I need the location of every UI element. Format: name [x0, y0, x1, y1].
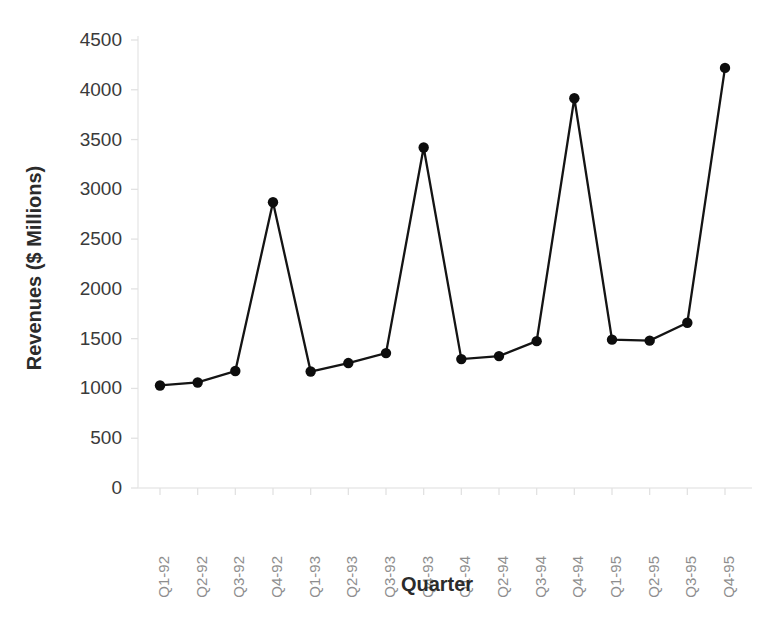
x-axis-tick-label: Q1-95	[607, 556, 624, 598]
data-point-marker	[305, 366, 315, 376]
chart-canvas: 050010001500200025003000350040004500 Q1-…	[0, 0, 783, 630]
x-axis-tick-label: Q3-93	[381, 556, 398, 598]
y-axis-tick-label: 2500	[80, 228, 122, 249]
data-point-marker	[381, 348, 391, 358]
x-axis-tick-label: Q4-92	[268, 556, 285, 598]
y-axis-tick-label: 3000	[80, 178, 122, 199]
data-point-marker	[192, 377, 202, 387]
x-axis-tick-label: Q4-95	[720, 556, 737, 598]
x-axis-tick-label: Q4-94	[569, 556, 586, 598]
x-axis-tick-label: Q2-92	[193, 556, 210, 598]
data-point-marker	[418, 142, 428, 152]
data-point-marker	[230, 366, 240, 376]
data-point-marker	[456, 354, 466, 364]
x-axis-tick-label: Q1-92	[155, 556, 172, 598]
x-axis-tick-label: Q2-94	[494, 556, 511, 598]
data-point-marker	[155, 380, 165, 390]
x-axis-tick-label: Q2-95	[645, 556, 662, 598]
y-axis-tick-label: 0	[111, 477, 122, 498]
y-axis-title: Revenues ($ Millions)	[23, 166, 45, 371]
y-axis-tick-label: 500	[90, 427, 122, 448]
x-axis-title: Quarter	[401, 573, 473, 595]
data-point-marker	[268, 197, 278, 207]
x-axis-tick-label: Q3-94	[532, 556, 549, 598]
data-point-marker	[682, 318, 692, 328]
x-axis-tick-label: Q1-93	[306, 556, 323, 598]
x-axis-tick-label: Q3-92	[230, 556, 247, 598]
y-axis-tick-label: 1500	[80, 328, 122, 349]
data-point-marker	[494, 351, 504, 361]
data-point-marker	[644, 335, 654, 345]
y-axis-tick-label: 4500	[80, 29, 122, 50]
data-point-marker	[343, 358, 353, 368]
data-point-marker	[569, 93, 579, 103]
data-point-marker	[720, 63, 730, 73]
y-axis-tick-label: 1000	[80, 377, 122, 398]
y-axis-tick-label: 3500	[80, 129, 122, 150]
x-axis-tick-label: Q3-95	[682, 556, 699, 598]
data-point-marker	[607, 334, 617, 344]
y-axis-tick-label: 4000	[80, 79, 122, 100]
y-axis-tick-label: 2000	[80, 278, 122, 299]
revenue-line-chart: 050010001500200025003000350040004500 Q1-…	[0, 0, 783, 630]
data-point-marker	[531, 336, 541, 346]
x-axis-tick-label: Q2-93	[343, 556, 360, 598]
